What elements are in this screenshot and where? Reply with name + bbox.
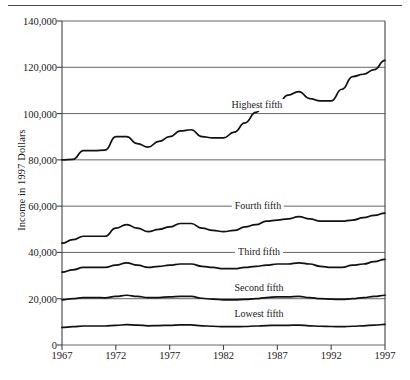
series-line — [62, 259, 385, 272]
y-tick-label: 40,000 — [28, 247, 57, 258]
y-axis-tick-labels: 020,00040,00060,00080,000100,000120,0001… — [0, 0, 57, 380]
series-label: Third fifth — [235, 246, 283, 258]
y-tick-label: 20,000 — [28, 293, 57, 304]
series-line — [62, 60, 385, 160]
top-divider-rule — [8, 5, 402, 6]
series-line — [62, 324, 385, 327]
series-label: Lowest fifth — [231, 308, 286, 320]
y-tick-label: 0 — [52, 340, 57, 351]
x-tick-label: 1992 — [321, 350, 342, 361]
chart-figure: Income in 1997 Dollars 020,00040,00060,0… — [0, 0, 410, 380]
y-tick-label: 120,000 — [23, 62, 57, 73]
x-tick-label: 1987 — [267, 350, 288, 361]
series-line — [62, 295, 385, 300]
x-tick-label: 1977 — [159, 350, 180, 361]
series-label: Second fifth — [231, 282, 286, 294]
y-tick-label: 80,000 — [28, 154, 57, 165]
series-label: Fourth fifth — [232, 200, 284, 212]
plot-area — [0, 0, 410, 380]
y-tick-label: 100,000 — [23, 108, 57, 119]
x-tick-label: 1972 — [105, 350, 126, 361]
x-tick-label: 1997 — [375, 350, 396, 361]
y-tick-label: 60,000 — [28, 201, 57, 212]
series-line — [62, 213, 385, 243]
y-tick-label: 140,000 — [23, 16, 57, 27]
x-tick-label: 1967 — [52, 350, 73, 361]
x-tick-label: 1982 — [213, 350, 234, 361]
series-label: Highest fifth — [228, 99, 285, 111]
